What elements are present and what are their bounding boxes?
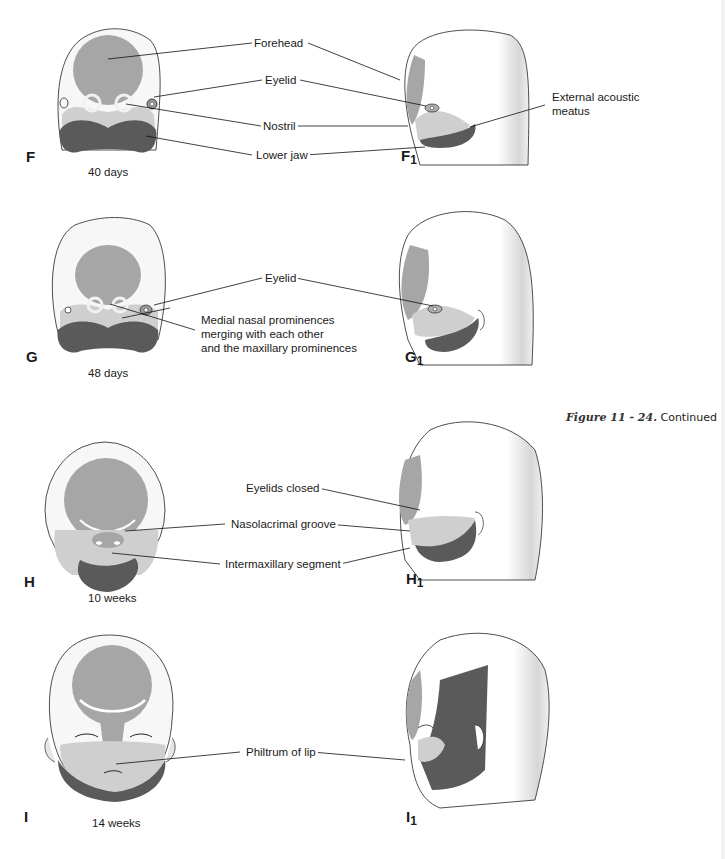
label-lower-jaw: Lower jaw: [254, 148, 310, 162]
page-edge: [721, 0, 725, 859]
panel-letter-h1-subscript: 1: [417, 576, 424, 590]
panel-f-frontal-head: [58, 29, 160, 153]
label-forehead: Forehead: [252, 36, 305, 50]
panel-letter-h1: H1: [406, 570, 424, 590]
panel-g1-lateral-head: [399, 212, 533, 365]
panel-i1-lateral-head: [406, 633, 549, 808]
panel-g-frontal-head: [52, 218, 165, 353]
embryo-face-development-figure: Forehead Eyelid Nostril Lower jaw Extern…: [0, 0, 725, 859]
figure-caption-ref: Figure 11 - 24.: [566, 411, 657, 424]
label-eyelids-closed: Eyelids closed: [244, 481, 322, 495]
panel-letter-f1-main: F: [401, 147, 410, 164]
panel-letter-h: H: [24, 573, 35, 590]
panel-h1-lateral-head: [399, 422, 543, 580]
label-medial-nasal-prominences: Medial nasal prominences merging with ea…: [199, 313, 359, 355]
label-medial-nasal-line3: and the maxillary prominences: [201, 341, 357, 355]
label-external-acoustic-meatus-line2: meatus: [552, 104, 640, 118]
panel-letter-g: G: [26, 348, 38, 365]
label-medial-nasal-line2: merging with each other: [201, 327, 357, 341]
panel-letter-h1-main: H: [406, 570, 417, 587]
panel-letter-i: I: [24, 808, 28, 825]
panel-letter-g1: G1: [405, 348, 423, 368]
figure-caption: Figure 11 - 24. Continued: [566, 411, 717, 424]
age-label-i: 14 weeks: [92, 817, 141, 829]
panel-f1-lateral-head: [405, 30, 529, 165]
label-intermaxillary-segment: Intermaxillary segment: [223, 557, 343, 571]
panel-letter-i1: I1: [406, 808, 417, 828]
label-eyelid-g: Eyelid: [263, 271, 298, 285]
panel-letter-f: F: [26, 148, 35, 165]
panel-letter-i1-subscript: 1: [410, 814, 417, 828]
panel-letter-g1-subscript: 1: [417, 354, 424, 368]
label-medial-nasal-line1: Medial nasal prominences: [201, 313, 357, 327]
label-nasolacrimal-groove: Nasolacrimal groove: [229, 517, 338, 531]
label-external-acoustic-meatus: External acoustic meatus: [550, 90, 642, 118]
figure-caption-text: Continued: [660, 411, 716, 424]
label-philtrum-of-lip: Philtrum of lip: [244, 745, 318, 759]
label-nostril: Nostril: [261, 119, 298, 133]
age-label-h: 10 weeks: [88, 592, 137, 604]
illustration-canvas: [0, 0, 725, 859]
age-label-f: 40 days: [88, 166, 128, 178]
panel-letter-f1-subscript: 1: [410, 153, 417, 167]
age-label-g: 48 days: [88, 367, 128, 379]
panel-letter-f1: F1: [401, 147, 417, 167]
label-external-acoustic-meatus-line1: External acoustic: [552, 90, 640, 104]
panel-i-frontal-head: [45, 635, 175, 802]
panel-letter-g1-main: G: [405, 348, 417, 365]
label-eyelid-f: Eyelid: [263, 73, 298, 87]
panel-h-frontal-head: [45, 442, 165, 592]
